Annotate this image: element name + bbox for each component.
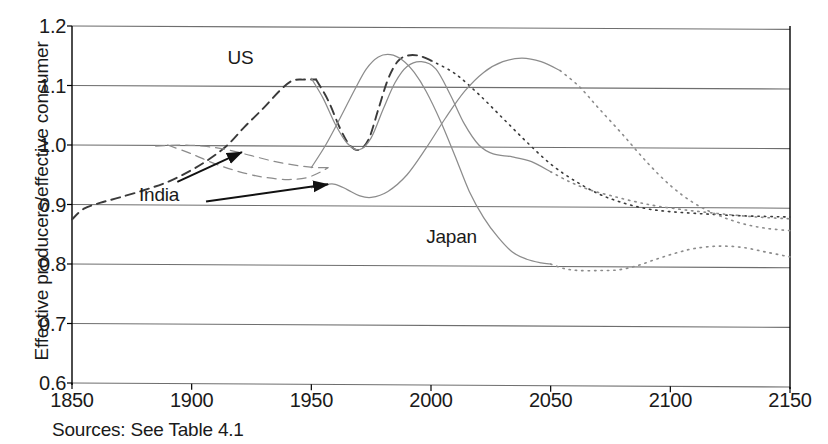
x-tick-label: 2050 bbox=[511, 390, 591, 410]
source-note: Sources: See Table 4.1 bbox=[52, 419, 244, 441]
series-line-us bbox=[316, 55, 431, 150]
y-tick-label: 1.0 bbox=[39, 135, 66, 155]
annotation-arrow bbox=[177, 152, 242, 182]
x-tick-label: 1850 bbox=[32, 390, 112, 410]
series-line-us-light bbox=[311, 62, 550, 172]
x-tick-label: 1950 bbox=[271, 390, 351, 410]
gridline bbox=[72, 324, 790, 328]
annotation-arrow bbox=[206, 184, 328, 201]
gridline bbox=[72, 264, 790, 268]
x-tick-label: 2100 bbox=[630, 390, 710, 410]
y-tick-label: 0.9 bbox=[39, 195, 66, 215]
y-axis-tick-labels: 0.60.70.80.91.01.11.2 bbox=[8, 0, 66, 444]
series-label-us: US bbox=[228, 47, 254, 69]
chart-plot-area bbox=[0, 0, 828, 444]
series-line-us bbox=[431, 61, 790, 217]
y-tick-label: 0.8 bbox=[39, 254, 66, 274]
gridline bbox=[72, 205, 790, 209]
series-line-us bbox=[72, 79, 316, 219]
gridline bbox=[72, 86, 790, 90]
gridline bbox=[72, 26, 790, 29]
series-label-india: India bbox=[139, 184, 179, 206]
x-tick-label: 2000 bbox=[391, 390, 471, 410]
series-line-india bbox=[311, 58, 560, 197]
y-tick-label: 1.1 bbox=[39, 76, 66, 96]
y-tick-label: 1.2 bbox=[39, 16, 66, 36]
figure-container: Effective producers/effective consumer 0… bbox=[0, 0, 828, 444]
x-tick-label: 2150 bbox=[750, 390, 828, 410]
x-tick-label: 1900 bbox=[152, 390, 232, 410]
series-line-india bbox=[156, 145, 328, 168]
y-tick-label: 0.7 bbox=[39, 314, 66, 334]
series-label-japan: Japan bbox=[426, 226, 477, 248]
